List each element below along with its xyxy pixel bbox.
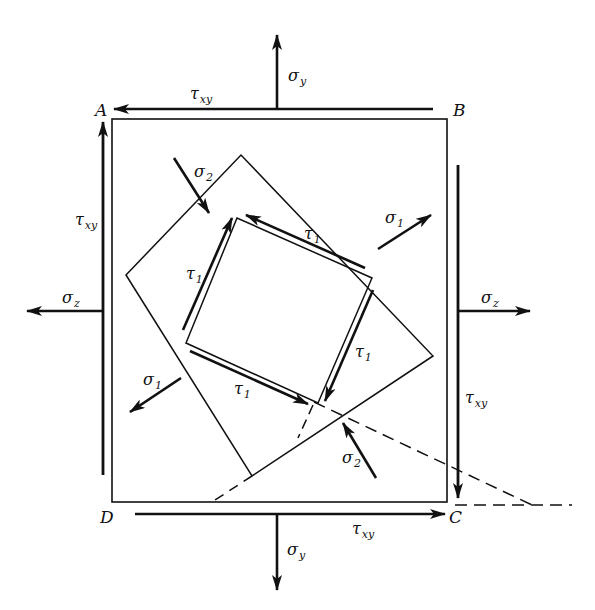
tau-1-bottom-label: τ1	[234, 381, 251, 400]
stress-element-diagram: A B C D σy τxy τxy σz σz τxy τxy σy σ2 σ…	[0, 0, 595, 610]
diagram-graphics	[0, 0, 595, 610]
sigma-y-top-label: σy	[288, 68, 306, 87]
corner-label-c: C	[449, 509, 462, 526]
sigma-1-right-label: σ1	[385, 210, 404, 229]
dashed-line-inner	[298, 405, 313, 438]
tau-xy-top-label: τxy	[190, 86, 212, 105]
tau-1-right-label: τ1	[355, 344, 372, 363]
corner-label-b: B	[453, 102, 466, 119]
tau-1-top-label: τ1	[304, 226, 321, 245]
outer-element-square	[112, 119, 447, 502]
tau-xy-right-label: τxy	[465, 390, 487, 409]
dashed-line-lower-left	[212, 476, 252, 502]
tau-1-left-label: τ1	[186, 266, 203, 285]
principal-element	[126, 155, 433, 476]
sigma-2-lower-label: σ2	[342, 450, 361, 469]
sigma-z-right-label: σz	[481, 290, 499, 309]
sigma-2-upper-label: σ2	[194, 164, 213, 183]
corner-label-a: A	[95, 102, 107, 119]
sigma-1-left-label: σ1	[143, 372, 162, 391]
max-shear-element	[186, 218, 372, 403]
tau-xy-bottom-label: τxy	[352, 521, 374, 540]
sigma-y-bottom-label: σy	[287, 542, 305, 561]
corner-label-d: D	[100, 509, 114, 526]
tau-xy-left-label: τxy	[75, 212, 97, 231]
sigma-z-left-label: σz	[62, 290, 80, 309]
